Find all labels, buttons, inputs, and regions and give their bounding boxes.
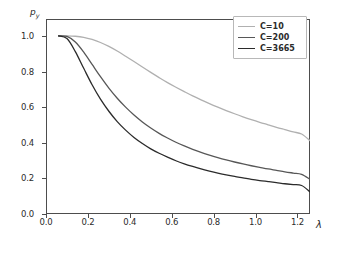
legend-label: C=3665	[260, 44, 295, 53]
chart-figure: py λ 0.00.20.40.60.81.0 0.00.20.40.60.81…	[0, 0, 345, 255]
legend-item: C=3665	[238, 43, 301, 54]
y-tick-mark	[42, 143, 46, 144]
x-axis-label: λ	[316, 219, 322, 230]
y-tick-mark	[42, 72, 46, 73]
x-tick-label: 0.6	[165, 217, 178, 227]
y-tick-label: 0.2	[21, 173, 34, 183]
y-tick-mark	[42, 178, 46, 179]
legend-line-swatch	[238, 48, 255, 49]
curve-c-3665	[59, 36, 310, 192]
x-tick-label: 0.0	[40, 217, 53, 227]
x-tick-label: 0.4	[123, 217, 136, 227]
legend-item: C=10	[238, 21, 301, 32]
y-tick-label: 0.8	[21, 67, 34, 77]
y-tick-label: 0.4	[21, 138, 34, 148]
x-tick-label: 0.2	[81, 217, 94, 227]
y-tick-mark	[42, 107, 46, 108]
x-tick-label: 1.0	[249, 217, 262, 227]
y-tick-label: 0.0	[21, 209, 34, 219]
y-tick-label: 0.6	[21, 102, 34, 112]
chart-legend: C=10C=200C=3665	[233, 16, 307, 59]
legend-line-swatch	[238, 37, 255, 38]
x-tick-label: 0.8	[207, 217, 220, 227]
legend-label: C=10	[260, 22, 284, 31]
legend-item: C=200	[238, 32, 301, 43]
y-axis-label-subscript: y	[36, 12, 40, 20]
legend-line-swatch	[238, 26, 255, 27]
legend-label: C=200	[260, 33, 289, 42]
y-axis-label: py	[30, 7, 40, 20]
x-tick-label: 1.2	[291, 217, 304, 227]
y-tick-label: 1.0	[21, 31, 34, 41]
y-tick-mark	[42, 36, 46, 37]
